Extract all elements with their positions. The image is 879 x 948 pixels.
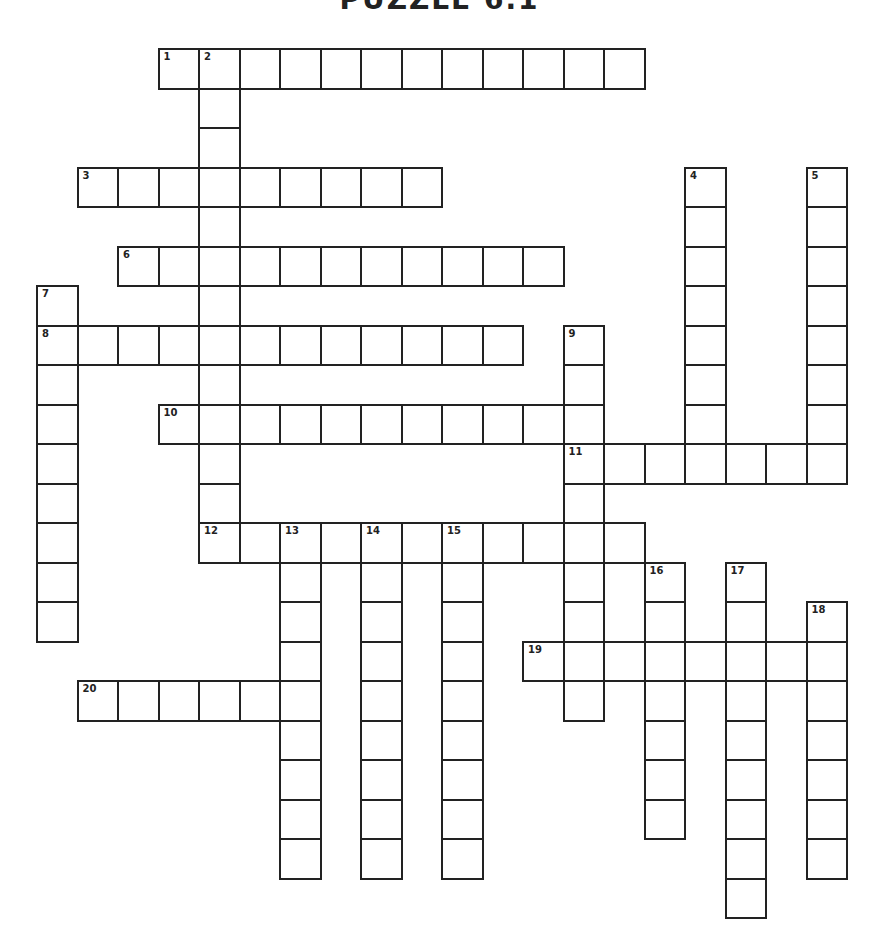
- grid-cell[interactable]: [563, 562, 606, 604]
- grid-cell[interactable]: [725, 443, 768, 485]
- grid-cell[interactable]: [441, 838, 484, 880]
- grid-cell[interactable]: [806, 206, 849, 248]
- grid-cell[interactable]: [198, 127, 241, 169]
- grid-cell[interactable]: [806, 838, 849, 880]
- grid-cell[interactable]: [279, 601, 322, 643]
- grid-cell[interactable]: [239, 522, 282, 564]
- grid-cell[interactable]: [198, 285, 241, 327]
- grid-cell[interactable]: 9: [563, 325, 606, 367]
- grid-cell[interactable]: [806, 404, 849, 446]
- grid-cell[interactable]: [77, 325, 120, 367]
- grid-cell[interactable]: [806, 641, 849, 683]
- grid-cell[interactable]: [563, 680, 606, 722]
- grid-cell[interactable]: [198, 680, 241, 722]
- grid-cell[interactable]: [806, 759, 849, 801]
- grid-cell[interactable]: [401, 325, 444, 367]
- grid-cell[interactable]: [644, 641, 687, 683]
- grid-cell[interactable]: 3: [77, 167, 120, 209]
- grid-cell[interactable]: [684, 206, 727, 248]
- grid-cell[interactable]: [401, 246, 444, 288]
- grid-cell[interactable]: [806, 364, 849, 406]
- grid-cell[interactable]: 6: [117, 246, 160, 288]
- grid-cell[interactable]: [36, 562, 79, 604]
- grid-cell[interactable]: [441, 641, 484, 683]
- grid-cell[interactable]: [360, 404, 403, 446]
- grid-cell[interactable]: [360, 680, 403, 722]
- grid-cell[interactable]: [198, 404, 241, 446]
- grid-cell[interactable]: [441, 404, 484, 446]
- grid-cell[interactable]: [36, 404, 79, 446]
- grid-cell[interactable]: [725, 878, 768, 920]
- grid-cell[interactable]: [360, 641, 403, 683]
- grid-cell[interactable]: [279, 562, 322, 604]
- grid-cell[interactable]: 10: [158, 404, 201, 446]
- grid-cell[interactable]: [279, 799, 322, 841]
- grid-cell[interactable]: [806, 325, 849, 367]
- grid-cell[interactable]: [563, 48, 606, 90]
- grid-cell[interactable]: 4: [684, 167, 727, 209]
- grid-cell[interactable]: [563, 483, 606, 525]
- grid-cell[interactable]: [198, 364, 241, 406]
- grid-cell[interactable]: [603, 443, 646, 485]
- grid-cell[interactable]: [239, 48, 282, 90]
- grid-cell[interactable]: [198, 483, 241, 525]
- grid-cell[interactable]: [36, 443, 79, 485]
- grid-cell[interactable]: 17: [725, 562, 768, 604]
- grid-cell[interactable]: [158, 325, 201, 367]
- grid-cell[interactable]: [279, 167, 322, 209]
- grid-cell[interactable]: [36, 522, 79, 564]
- grid-cell[interactable]: [279, 246, 322, 288]
- grid-cell[interactable]: [279, 325, 322, 367]
- grid-cell[interactable]: [725, 641, 768, 683]
- grid-cell[interactable]: [320, 325, 363, 367]
- grid-cell[interactable]: [360, 48, 403, 90]
- grid-cell[interactable]: [360, 838, 403, 880]
- grid-cell[interactable]: [684, 285, 727, 327]
- grid-cell[interactable]: [441, 720, 484, 762]
- grid-cell[interactable]: [644, 720, 687, 762]
- grid-cell[interactable]: 16: [644, 562, 687, 604]
- grid-cell[interactable]: [482, 246, 525, 288]
- grid-cell[interactable]: [279, 641, 322, 683]
- grid-cell[interactable]: [198, 325, 241, 367]
- grid-cell[interactable]: [765, 443, 808, 485]
- grid-cell[interactable]: 2: [198, 48, 241, 90]
- grid-cell[interactable]: [36, 601, 79, 643]
- grid-cell[interactable]: [36, 364, 79, 406]
- grid-cell[interactable]: [279, 48, 322, 90]
- grid-cell[interactable]: 8: [36, 325, 79, 367]
- grid-cell[interactable]: [441, 246, 484, 288]
- grid-cell[interactable]: 7: [36, 285, 79, 327]
- grid-cell[interactable]: [117, 325, 160, 367]
- grid-cell[interactable]: [644, 601, 687, 643]
- grid-cell[interactable]: [441, 48, 484, 90]
- grid-cell[interactable]: [482, 522, 525, 564]
- grid-cell[interactable]: [320, 404, 363, 446]
- grid-cell[interactable]: [522, 246, 565, 288]
- grid-cell[interactable]: [603, 641, 646, 683]
- grid-cell[interactable]: [198, 88, 241, 130]
- grid-cell[interactable]: [239, 246, 282, 288]
- grid-cell[interactable]: [441, 325, 484, 367]
- grid-cell[interactable]: [320, 246, 363, 288]
- grid-cell[interactable]: [725, 799, 768, 841]
- grid-cell[interactable]: [441, 562, 484, 604]
- grid-cell[interactable]: [320, 522, 363, 564]
- grid-cell[interactable]: 19: [522, 641, 565, 683]
- grid-cell[interactable]: [482, 48, 525, 90]
- grid-cell[interactable]: 1: [158, 48, 201, 90]
- grid-cell[interactable]: [401, 404, 444, 446]
- grid-cell[interactable]: [684, 364, 727, 406]
- grid-cell[interactable]: [725, 720, 768, 762]
- grid-cell[interactable]: [360, 562, 403, 604]
- grid-cell[interactable]: [563, 641, 606, 683]
- grid-cell[interactable]: 14: [360, 522, 403, 564]
- grid-cell[interactable]: 15: [441, 522, 484, 564]
- grid-cell[interactable]: [441, 759, 484, 801]
- grid-cell[interactable]: [198, 443, 241, 485]
- grid-cell[interactable]: [198, 206, 241, 248]
- grid-cell[interactable]: [806, 246, 849, 288]
- grid-cell[interactable]: [198, 246, 241, 288]
- grid-cell[interactable]: [603, 522, 646, 564]
- grid-cell[interactable]: [441, 799, 484, 841]
